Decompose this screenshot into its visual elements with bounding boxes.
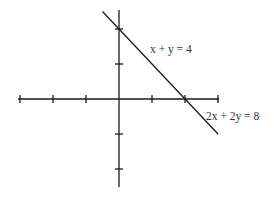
- annotation-x-plus-y-equals-4: x + y = 4: [150, 43, 192, 56]
- chart: x + y = 4 2x + 2y = 8: [0, 0, 280, 200]
- series-line: [103, 12, 219, 135]
- annotation-2x-plus-2y-equals-8: 2x + 2y = 8: [206, 110, 259, 123]
